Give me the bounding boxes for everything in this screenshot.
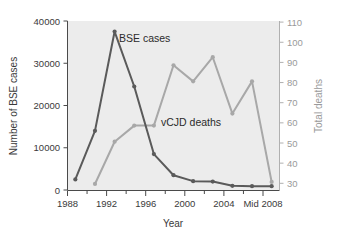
y2tick-label-30: 30 xyxy=(287,178,298,189)
data-point xyxy=(211,55,215,59)
data-point xyxy=(132,124,136,128)
y2tick-label-70: 70 xyxy=(287,97,298,108)
data-point xyxy=(113,29,117,33)
xtick-label-1988: 1988 xyxy=(57,198,78,209)
chart-svg: 40000 30000 20000 10000 0 Number of BSE … xyxy=(0,0,338,244)
series-annotation-vcjd-deaths: vCJD deaths xyxy=(161,116,221,128)
y-axis-title-left: Number of BSE cases xyxy=(8,57,19,155)
series-annotation-bse-cases: BSE cases xyxy=(119,32,170,44)
data-point xyxy=(211,179,215,183)
xtick-label-1996: 1996 xyxy=(135,198,156,209)
y2tick-label-40: 40 xyxy=(287,158,298,169)
y2tick-label-50: 50 xyxy=(287,138,298,149)
data-point xyxy=(191,79,195,83)
y2tick-label-80: 80 xyxy=(287,77,298,88)
xtick-label-2000: 2000 xyxy=(174,198,195,209)
ytick-label-20000: 20000 xyxy=(34,100,60,111)
data-point xyxy=(230,184,234,188)
ytick-label-30000: 30000 xyxy=(34,58,60,69)
data-point xyxy=(250,184,254,188)
data-point xyxy=(73,177,77,181)
y2tick-label-60: 60 xyxy=(287,117,298,128)
data-point xyxy=(93,129,97,133)
data-point xyxy=(152,152,156,156)
ytick-label-0: 0 xyxy=(55,185,60,196)
xtick-label-1992: 1992 xyxy=(96,198,117,209)
xtick-label-2004: 2004 xyxy=(213,198,234,209)
y-axis-title-right: Total deaths xyxy=(313,79,324,133)
data-point xyxy=(230,111,234,115)
y2tick-label-110: 110 xyxy=(287,17,302,28)
data-point xyxy=(270,180,274,184)
data-point xyxy=(113,140,117,144)
bse-vcjd-chart: 40000 30000 20000 10000 0 Number of BSE … xyxy=(0,0,338,244)
xtick-label-mid-2008: Mid 2008 xyxy=(243,198,282,209)
plot-area-background xyxy=(67,21,279,190)
data-point xyxy=(270,184,274,188)
data-point xyxy=(191,179,195,183)
data-point xyxy=(152,124,156,128)
data-point xyxy=(132,84,136,88)
ytick-label-40000: 40000 xyxy=(34,16,60,27)
x-axis-title: Year xyxy=(163,218,184,229)
y2tick-label-90: 90 xyxy=(287,57,298,68)
y2tick-label-100: 100 xyxy=(287,37,303,48)
ytick-label-10000: 10000 xyxy=(34,142,60,153)
data-point xyxy=(171,63,175,67)
data-point xyxy=(93,182,97,186)
data-point xyxy=(171,173,175,177)
data-point xyxy=(250,79,254,83)
